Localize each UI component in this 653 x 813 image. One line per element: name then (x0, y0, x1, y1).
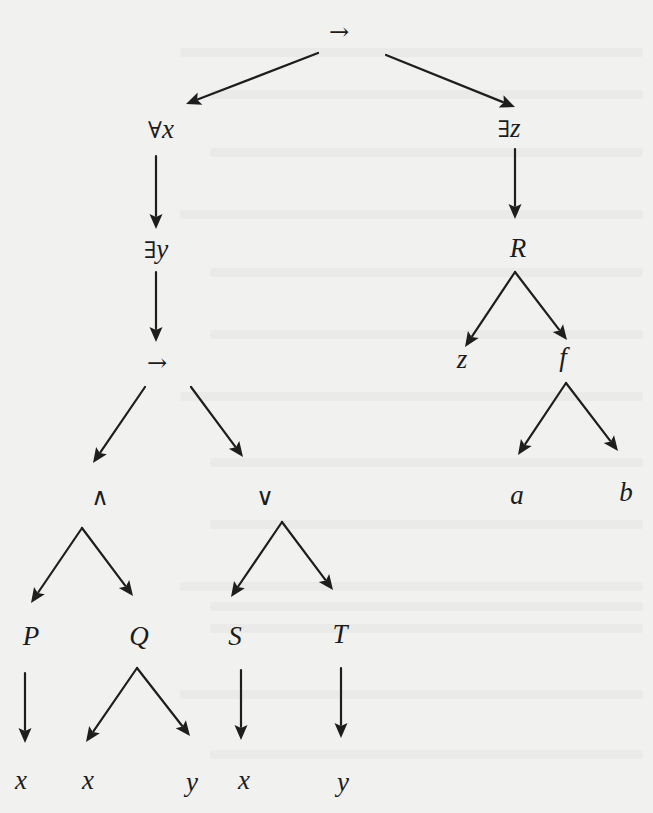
quantifier-symbol: ∃ (144, 237, 156, 263)
node-y2: y (334, 767, 349, 797)
node-P: P (22, 621, 40, 651)
edge-line (82, 528, 125, 586)
node-or: ∨ (256, 483, 274, 511)
bleed-through-line (210, 458, 643, 467)
edge-or-to-T (282, 522, 333, 590)
node-and: ∧ (91, 483, 109, 511)
page-bleed-through-texture (180, 48, 643, 759)
node-z_leaf: z (456, 344, 468, 374)
edge-line (137, 668, 182, 726)
edge-line (93, 668, 137, 731)
bleed-through-line (210, 148, 643, 157)
edge-line (100, 387, 145, 452)
edge-exists_z-to-R (509, 149, 522, 219)
bleed-through-line (210, 750, 643, 759)
edge-and-to-Q (82, 528, 133, 596)
edge-P-to-x1 (19, 673, 32, 743)
edge-and-to-P (31, 528, 82, 603)
node-exists_z: ∃z (498, 113, 521, 143)
node-Q: Q (129, 621, 149, 651)
edge-S-to-x3 (235, 670, 248, 740)
bleed-through-line (210, 602, 643, 611)
node-x3: x (237, 765, 250, 795)
bleed-through-line (210, 90, 643, 99)
arrowhead-icon (518, 439, 532, 455)
node-b: b (619, 477, 633, 507)
node-a: a (510, 480, 524, 510)
arrowhead-icon (229, 441, 243, 457)
arrowhead-icon (86, 726, 100, 742)
arrowhead-icon (93, 447, 107, 463)
edge-root-to-exists_z (386, 55, 515, 107)
edge-line (38, 528, 82, 592)
edge-line (515, 272, 559, 330)
node-root: → (329, 18, 349, 46)
arrowhead-icon (31, 587, 45, 603)
formula-syntax-tree: →∀x∃z∃yR→zf∧∨abPQSTxxyxy (0, 0, 653, 813)
quantifier-symbol: ∀ (148, 117, 162, 143)
node-forall: ∀x (148, 114, 174, 144)
bleed-through-line (210, 520, 643, 529)
edge-T-to-y2 (335, 668, 348, 738)
node-S: S (228, 621, 242, 651)
edge-line (238, 522, 282, 586)
bleed-through-line (210, 624, 643, 633)
edge-line (472, 272, 515, 336)
arrowhead-icon (119, 580, 133, 596)
arrowhead-icon (176, 720, 190, 736)
bleed-through-line (180, 690, 643, 699)
quantifier-symbol: ∃ (498, 116, 510, 142)
edge-Q-to-x2 (86, 668, 137, 742)
edge-Q-to-y1 (137, 668, 190, 736)
edge-line (566, 383, 610, 441)
edge-imp2-to-and (93, 387, 145, 463)
node-x1: x (14, 765, 27, 795)
bleed-through-line (180, 48, 643, 57)
node-y1: y (183, 767, 198, 797)
bound-variable: y (153, 234, 168, 264)
bleed-through-line (210, 330, 643, 339)
node-f: f (559, 342, 570, 372)
edge-exists_y-to-imp2 (150, 272, 163, 342)
node-T: T (332, 619, 349, 649)
edge-forall-to-exists_y (150, 156, 163, 229)
bleed-through-line (180, 210, 643, 219)
node-R: R (509, 233, 527, 263)
node-imp2: → (147, 349, 167, 377)
arrowhead-icon (604, 435, 618, 451)
bleed-through-line (180, 582, 643, 591)
tree-nodes: →∀x∃z∃yR→zf∧∨abPQSTxxyxy (14, 18, 633, 798)
bound-variable: z (509, 113, 521, 143)
node-x2: x (81, 765, 94, 795)
edge-line (282, 522, 325, 580)
node-exists_y: ∃y (144, 234, 168, 264)
bleed-through-line (210, 268, 643, 277)
edge-R-to-f (515, 272, 567, 340)
bound-variable: x (161, 114, 174, 144)
